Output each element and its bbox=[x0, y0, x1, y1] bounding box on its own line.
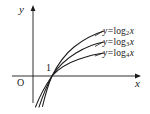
x-tick-label-1: 1 bbox=[46, 63, 51, 73]
log-base-3-label: y=log3x bbox=[103, 38, 134, 48]
log-base-4-label-arg: x bbox=[129, 48, 134, 58]
logarithm-curves-figure: y x O 1 y=log2x y=log3x y=log4x bbox=[0, 0, 150, 114]
log-base-3-label-arg: x bbox=[129, 37, 134, 47]
origin-label: O bbox=[17, 78, 24, 88]
curve-log-base-2 bbox=[43, 31, 105, 107]
log-base-4-label: y=log4x bbox=[103, 49, 134, 59]
log-base-2-label: y=log2x bbox=[103, 27, 134, 37]
log-base-2-label-fn: log bbox=[114, 26, 126, 36]
log-base-3-label-fn: log bbox=[114, 37, 126, 47]
y-axis-label: y bbox=[19, 4, 24, 15]
log-base-4-label-fn: log bbox=[114, 48, 126, 58]
log-base-2-label-arg: x bbox=[129, 26, 134, 36]
y-axis-arrowhead bbox=[31, 5, 36, 11]
curve-log-base-3 bbox=[39, 42, 104, 107]
x-axis-label: x bbox=[135, 78, 140, 89]
